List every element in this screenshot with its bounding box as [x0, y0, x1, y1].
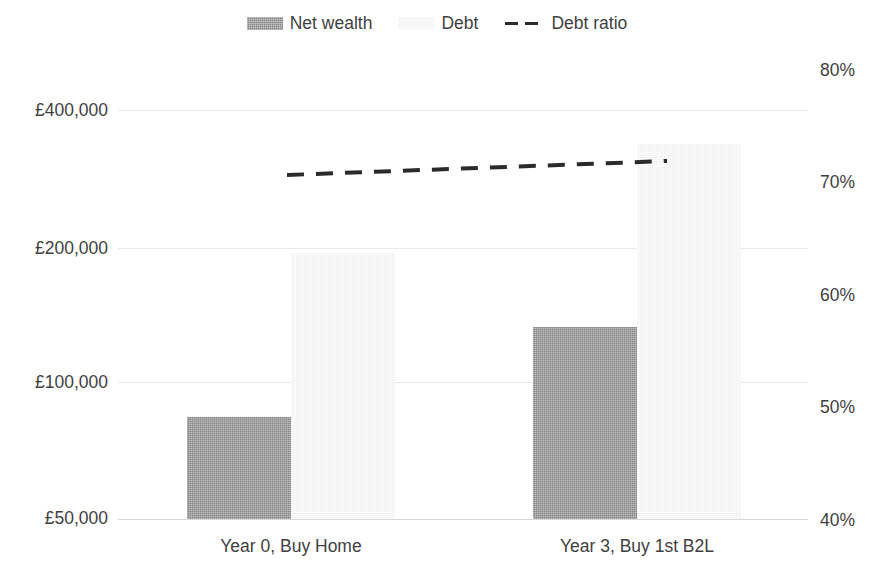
bar-debt-year3[interactable]: [637, 144, 741, 519]
bar-net-wealth-year3[interactable]: [533, 327, 637, 519]
y-axis-right-tick-50: 50%: [820, 397, 874, 418]
bar-net-wealth-year0[interactable]: [187, 417, 291, 519]
debt-ratio-line: [0, 0, 874, 574]
y-axis-right-tick-60: 60%: [820, 285, 874, 306]
y-axis-right-tick-80: 80%: [820, 60, 874, 81]
x-axis-label-year3: Year 3, Buy 1st B2L: [477, 536, 797, 557]
chart-container: Net wealth Debt Debt ratio £400,000 £200…: [0, 0, 874, 574]
debt-ratio-line-segment: [287, 161, 667, 175]
y-axis-left-tick-200000: £200,000: [0, 238, 108, 259]
y-axis-left-tick-50000: £50,000: [0, 508, 108, 529]
y-axis-left-tick-400000: £400,000: [0, 100, 108, 121]
gridline-400000: [118, 110, 808, 111]
y-axis-right-tick-40: 40%: [820, 510, 874, 531]
bar-debt-year0[interactable]: [291, 253, 395, 519]
gridline-50000-baseline: [118, 519, 808, 520]
y-axis-right-tick-70: 70%: [820, 172, 874, 193]
y-axis-left-tick-100000: £100,000: [0, 372, 108, 393]
x-axis-label-year0: Year 0, Buy Home: [131, 536, 451, 557]
plot-area: £400,000 £200,000 £100,000 £50,000 80% 7…: [0, 0, 874, 574]
